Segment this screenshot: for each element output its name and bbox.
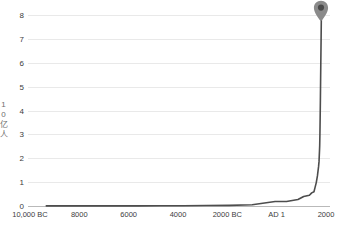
- x-tick-label-3: 4000: [170, 210, 187, 219]
- x-tick-label-4: 2000 BC: [213, 210, 242, 219]
- x-tick-label-6: 2000: [318, 210, 335, 219]
- x-tick-label-0: 10,000 BC: [12, 210, 47, 219]
- population-line-series: [28, 8, 330, 206]
- population-curve-path: [46, 16, 321, 206]
- y-tick-label-1: 1: [2, 178, 24, 187]
- plot-area: [28, 8, 330, 206]
- y-axis-tick-labels: 012345678: [0, 0, 24, 236]
- y-tick-label-8: 8: [2, 11, 24, 20]
- y-tick-label-7: 7: [2, 35, 24, 44]
- x-tick-label-1: 8000: [71, 210, 88, 219]
- map-pin-icon[interactable]: [313, 0, 329, 22]
- x-axis-tick-labels: 10,000 BC8000600040002000 BCAD 12000: [0, 210, 337, 224]
- y-tick-label-5: 5: [2, 82, 24, 91]
- y-tick-label-2: 2: [2, 154, 24, 163]
- map-pin-glyph: [313, 0, 329, 22]
- x-tick-label-2: 6000: [120, 210, 137, 219]
- y-tick-label-3: 3: [2, 130, 24, 139]
- population-growth-chart: 1 0 亿 人 012345678 10,000 BC8000600040002…: [0, 0, 337, 236]
- y-tick-label-4: 4: [2, 106, 24, 115]
- x-tick-label-5: AD 1: [268, 210, 285, 219]
- y-tick-label-6: 6: [2, 58, 24, 67]
